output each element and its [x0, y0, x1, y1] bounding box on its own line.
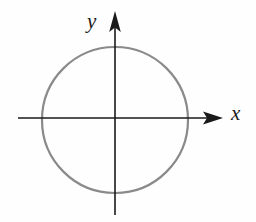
y-axis-label: y	[87, 11, 96, 32]
figure-canvas: y x	[0, 0, 256, 222]
coordinate-plane-graphic	[0, 0, 256, 222]
x-axis-label: x	[231, 103, 240, 124]
